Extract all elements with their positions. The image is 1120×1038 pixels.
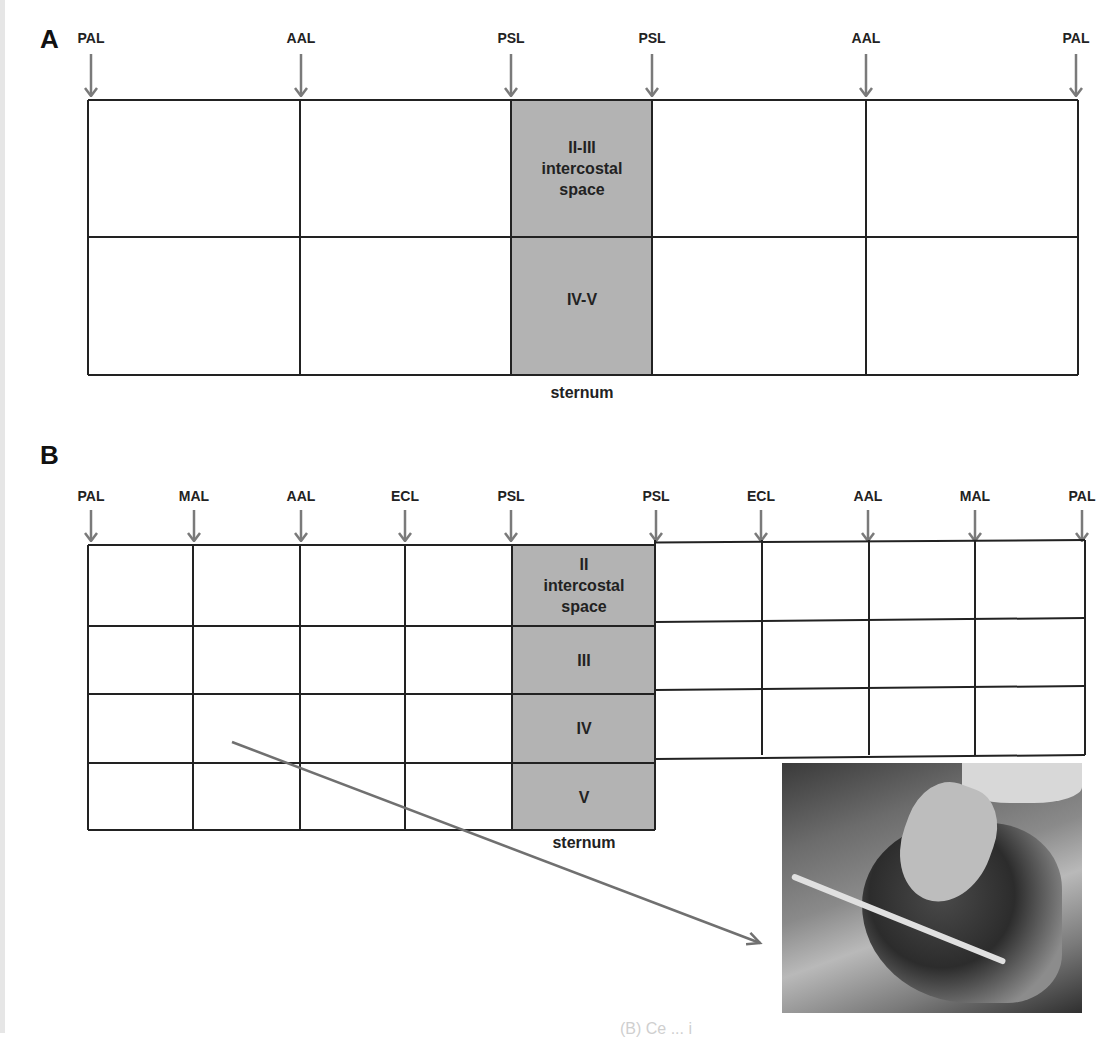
caption-fragment: (B) Ce ... i	[620, 1020, 692, 1038]
